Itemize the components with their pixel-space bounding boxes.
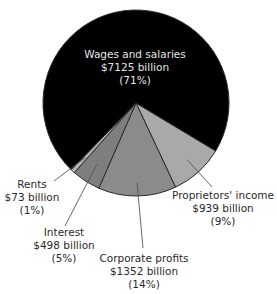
slice-percent: (71%) xyxy=(119,74,151,86)
slice-label-rents: Rents$73 billion(1%) xyxy=(5,178,60,216)
slice-percent: (1%) xyxy=(20,204,45,216)
slice-label-interest: Interest$498 billion(5%) xyxy=(33,226,94,264)
slice-value: $73 billion xyxy=(5,191,60,203)
slice-label-proprietors-income: Proprietors' income$939 billion(9%) xyxy=(172,189,274,227)
slice-name: Corporate profits xyxy=(99,252,188,264)
slice-name: Proprietors' income xyxy=(172,189,274,201)
pie-chart: Proprietors' income$939 billion(9%)Corpo… xyxy=(0,0,277,294)
slice-percent: (5%) xyxy=(52,252,77,264)
slice-value: $939 billion xyxy=(192,202,253,214)
slice-value: $498 billion xyxy=(33,239,94,251)
slice-value: $1352 billion xyxy=(110,265,178,277)
slice-name: Rents xyxy=(17,178,47,190)
slice-value: $7125 billion xyxy=(101,61,169,73)
slice-label-corporate-profits: Corporate profits$1352 billion(14%) xyxy=(99,252,188,290)
slice-name: Interest xyxy=(44,226,84,238)
slice-name: Wages and salaries xyxy=(84,48,186,60)
slice-percent: (9%) xyxy=(211,215,236,227)
slice-percent: (14%) xyxy=(128,278,160,290)
